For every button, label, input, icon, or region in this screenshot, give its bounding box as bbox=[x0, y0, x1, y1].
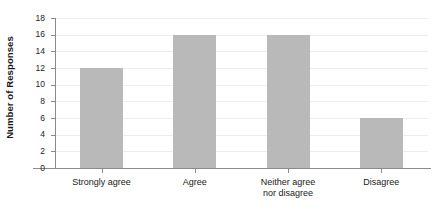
y-tick-mark bbox=[51, 68, 55, 69]
y-tick-mark bbox=[51, 35, 55, 36]
y-tick-label: 8 bbox=[0, 97, 45, 106]
x-tick-label: Agree bbox=[148, 177, 241, 188]
y-tick-mark bbox=[51, 168, 55, 169]
gridline bbox=[55, 51, 428, 52]
x-tick-mark bbox=[195, 169, 196, 173]
y-tick-mark bbox=[51, 151, 55, 152]
y-tick-mark bbox=[51, 135, 55, 136]
y-tick-label: 10 bbox=[0, 80, 45, 89]
bar bbox=[80, 68, 123, 168]
x-tick-label: Disagree bbox=[335, 177, 428, 188]
x-tick-mark bbox=[288, 169, 289, 173]
y-tick-label: 0 bbox=[0, 164, 45, 173]
y-tick-label: 2 bbox=[0, 147, 45, 156]
bar bbox=[173, 35, 216, 168]
x-tick-label: Strongly agree bbox=[55, 177, 148, 188]
gridline bbox=[55, 35, 428, 36]
y-tick-label: 14 bbox=[0, 47, 45, 56]
x-tick-label: Neither agree nor disagree bbox=[242, 177, 335, 199]
bar bbox=[267, 35, 310, 168]
y-tick-mark bbox=[51, 18, 55, 19]
y-tick-mark bbox=[51, 118, 55, 119]
bar bbox=[360, 118, 403, 168]
y-axis-line bbox=[55, 18, 56, 168]
y-tick-label: 4 bbox=[0, 130, 45, 139]
gridline bbox=[55, 18, 428, 19]
x-axis-line bbox=[33, 168, 431, 169]
y-tick-label: 6 bbox=[0, 114, 45, 123]
y-tick-label: 12 bbox=[0, 64, 45, 73]
y-tick-label: 16 bbox=[0, 30, 45, 39]
x-tick-mark bbox=[381, 169, 382, 173]
y-tick-label: 18 bbox=[0, 14, 45, 23]
x-tick-mark bbox=[102, 169, 103, 173]
y-tick-mark bbox=[51, 85, 55, 86]
y-tick-mark bbox=[51, 51, 55, 52]
y-tick-mark bbox=[51, 101, 55, 102]
bar-chart: Number of Responses 024681012141618Stron… bbox=[0, 0, 442, 217]
